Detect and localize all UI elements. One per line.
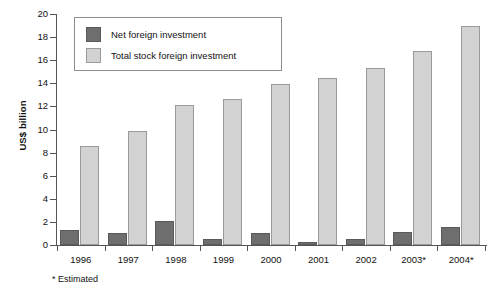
y-tick-label: 10: [26, 125, 48, 135]
bar-total-stock-foreign-investment: [318, 78, 337, 245]
y-tick-mark: [50, 222, 57, 223]
x-tick-mark: [57, 245, 58, 251]
bar-net-foreign-investment: [298, 242, 317, 245]
x-tick-mark: [342, 245, 343, 251]
y-tick-mark: [50, 153, 57, 154]
y-tick-mark: [50, 37, 57, 38]
y-tick-mark: [50, 106, 57, 107]
x-axis-label: 2000: [247, 254, 295, 265]
bar-net-foreign-investment: [108, 233, 127, 245]
y-tick-label-wrap: 18: [22, 32, 48, 42]
y-tick-mark: [50, 14, 57, 15]
bar-total-stock-foreign-investment: [80, 146, 99, 245]
y-tick-label: 4: [26, 194, 48, 204]
y-tick-label: 16: [26, 55, 48, 65]
x-tick-mark: [247, 245, 248, 251]
footnote: * Estimated: [52, 274, 98, 284]
x-axis-line: [56, 245, 487, 246]
y-tick-label: 18: [26, 32, 48, 42]
y-tick-label: 20: [26, 9, 48, 19]
x-tick-mark: [295, 245, 296, 251]
x-axis-label: 2002: [342, 254, 390, 265]
x-axis-label: 2001: [295, 254, 343, 265]
y-tick-label: 6: [26, 171, 48, 181]
x-tick-mark: [390, 245, 391, 251]
x-tick-mark: [437, 245, 438, 251]
bar-total-stock-foreign-investment: [128, 131, 147, 245]
y-tick-label-wrap: 12: [22, 101, 48, 111]
bar-net-foreign-investment: [441, 227, 460, 245]
legend-item-net: Net foreign investment: [86, 26, 206, 42]
y-tick-label: 14: [26, 78, 48, 88]
x-tick-mark: [105, 245, 106, 251]
legend-swatch-total-icon: [86, 48, 101, 63]
y-tick-label: 0: [26, 240, 48, 250]
bar-net-foreign-investment: [60, 230, 79, 245]
bar-net-foreign-investment: [251, 233, 270, 245]
bar-total-stock-foreign-investment: [223, 99, 242, 245]
y-tick-mark: [50, 245, 57, 246]
bar-total-stock-foreign-investment: [413, 51, 432, 245]
y-tick-label-wrap: 20: [22, 9, 48, 19]
y-tick-label: 12: [26, 101, 48, 111]
x-axis-label: 1997: [105, 254, 153, 265]
y-tick-label-wrap: 14: [22, 78, 48, 88]
bar-total-stock-foreign-investment: [366, 68, 385, 245]
x-tick-mark: [200, 245, 201, 251]
bar-net-foreign-investment: [155, 221, 174, 245]
bar-net-foreign-investment: [346, 239, 365, 245]
y-tick-label-wrap: 6: [22, 171, 48, 181]
y-tick-mark: [50, 83, 57, 84]
legend-label-net: Net foreign investment: [111, 29, 206, 40]
bar-net-foreign-investment: [393, 232, 412, 245]
bar-total-stock-foreign-investment: [271, 84, 290, 245]
y-tick-mark: [50, 199, 57, 200]
y-tick-label-wrap: 16: [22, 55, 48, 65]
x-tick-mark: [485, 245, 486, 251]
bar-total-stock-foreign-investment: [175, 105, 194, 245]
y-tick-label: 8: [26, 148, 48, 158]
x-tick-mark: [152, 245, 153, 251]
y-tick-mark: [50, 60, 57, 61]
x-axis-label: 2003*: [390, 254, 438, 265]
legend-swatch-net-icon: [86, 27, 101, 42]
legend-label-total: Total stock foreign investment: [111, 50, 236, 61]
y-tick-mark: [50, 130, 57, 131]
legend: Net foreign investment Total stock forei…: [74, 17, 282, 71]
x-axis-label: 1999: [200, 254, 248, 265]
y-tick-label-wrap: 10: [22, 125, 48, 135]
x-axis-label: 2004*: [437, 254, 485, 265]
y-tick-label-wrap: 0: [22, 240, 48, 250]
bar-total-stock-foreign-investment: [461, 26, 480, 245]
y-tick-label-wrap: 4: [22, 194, 48, 204]
x-axis-label: 1998: [152, 254, 200, 265]
bar-chart: US$ billion 02468101214161820 1996199719…: [0, 0, 501, 300]
legend-item-total: Total stock foreign investment: [86, 47, 236, 63]
x-axis-label: 1996: [57, 254, 105, 265]
y-tick-label: 2: [26, 217, 48, 227]
y-tick-label-wrap: 2: [22, 217, 48, 227]
y-tick-label-wrap: 8: [22, 148, 48, 158]
bar-net-foreign-investment: [203, 239, 222, 245]
y-tick-mark: [50, 176, 57, 177]
